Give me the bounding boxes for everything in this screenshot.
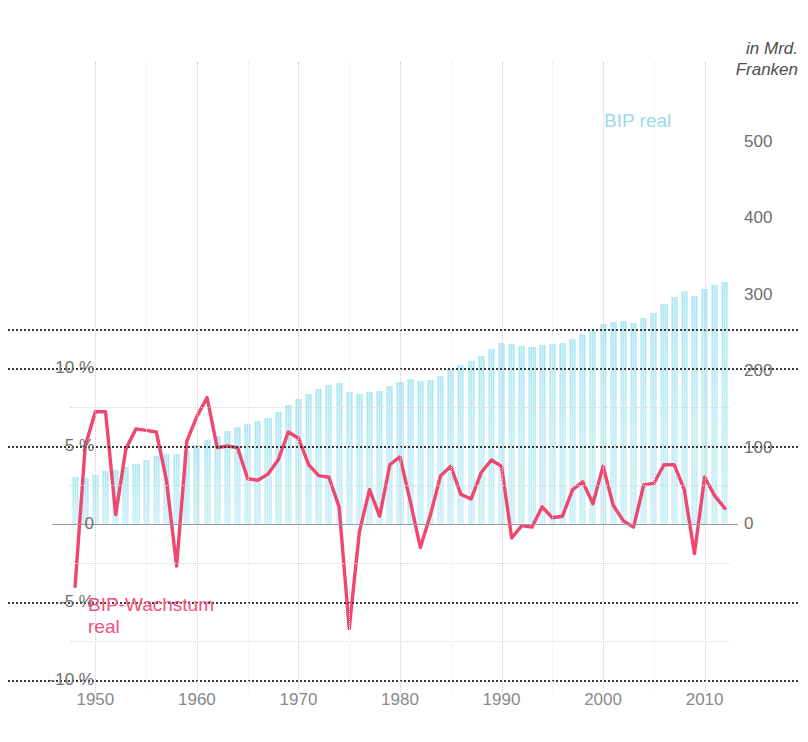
series-label-bip-wachstum: BIP-Wachstum real xyxy=(88,594,214,638)
unit-caption: in Mrd. Franken xyxy=(736,38,798,80)
gridline-vertical-2010 xyxy=(705,62,706,692)
gridline-vertical-2005 xyxy=(654,62,655,692)
x-axis-tick-2: 1970 xyxy=(280,690,318,710)
gridline-major xyxy=(8,446,798,448)
y-axis-left-tick-0: 10 % xyxy=(55,358,94,378)
x-axis-tick-6: 2010 xyxy=(686,690,724,710)
gridline-major xyxy=(8,680,798,682)
gridline-vertical-1990 xyxy=(502,62,503,692)
gridline-vertical-1975 xyxy=(349,62,350,692)
y-axis-right-tick-3: 200 xyxy=(744,361,772,381)
x-axis-tick-0: 1950 xyxy=(76,690,114,710)
x-axis-tick-3: 1980 xyxy=(381,690,419,710)
series-label-bip-real: BIP real xyxy=(604,110,671,132)
y-axis-left-tick-1: 5 % xyxy=(65,436,94,456)
gridline-vertical-1970 xyxy=(298,62,299,692)
gridline-major xyxy=(8,368,798,370)
gridline-vertical-2000 xyxy=(603,62,604,692)
plot-area xyxy=(70,62,730,670)
gridline-vertical-1985 xyxy=(451,62,452,692)
y-axis-right-tick-1: 400 xyxy=(744,208,772,228)
gridline-vertical-1965 xyxy=(248,62,249,692)
y-axis-right-tick-4: 100 xyxy=(744,438,772,458)
y-axis-left-tick-2: 0 xyxy=(85,514,94,534)
gridline-vertical-1980 xyxy=(400,62,401,692)
y-axis-right-tick-5: 0 xyxy=(744,514,753,534)
x-axis-tick-1: 1960 xyxy=(178,690,216,710)
gridline-vertical-1995 xyxy=(552,62,553,692)
zero-baseline xyxy=(52,524,738,525)
x-axis-tick-5: 2000 xyxy=(584,690,622,710)
x-axis-tick-4: 1990 xyxy=(483,690,521,710)
y-axis-right-tick-2: 300 xyxy=(744,285,772,305)
y-axis-left-tick-4: -10 % xyxy=(50,670,94,690)
gridline-major xyxy=(8,329,798,331)
gdp-chart: in Mrd. Franken 10 %5 %0-5 %-10 %5004003… xyxy=(0,0,808,742)
y-axis-right-tick-0: 500 xyxy=(744,132,772,152)
